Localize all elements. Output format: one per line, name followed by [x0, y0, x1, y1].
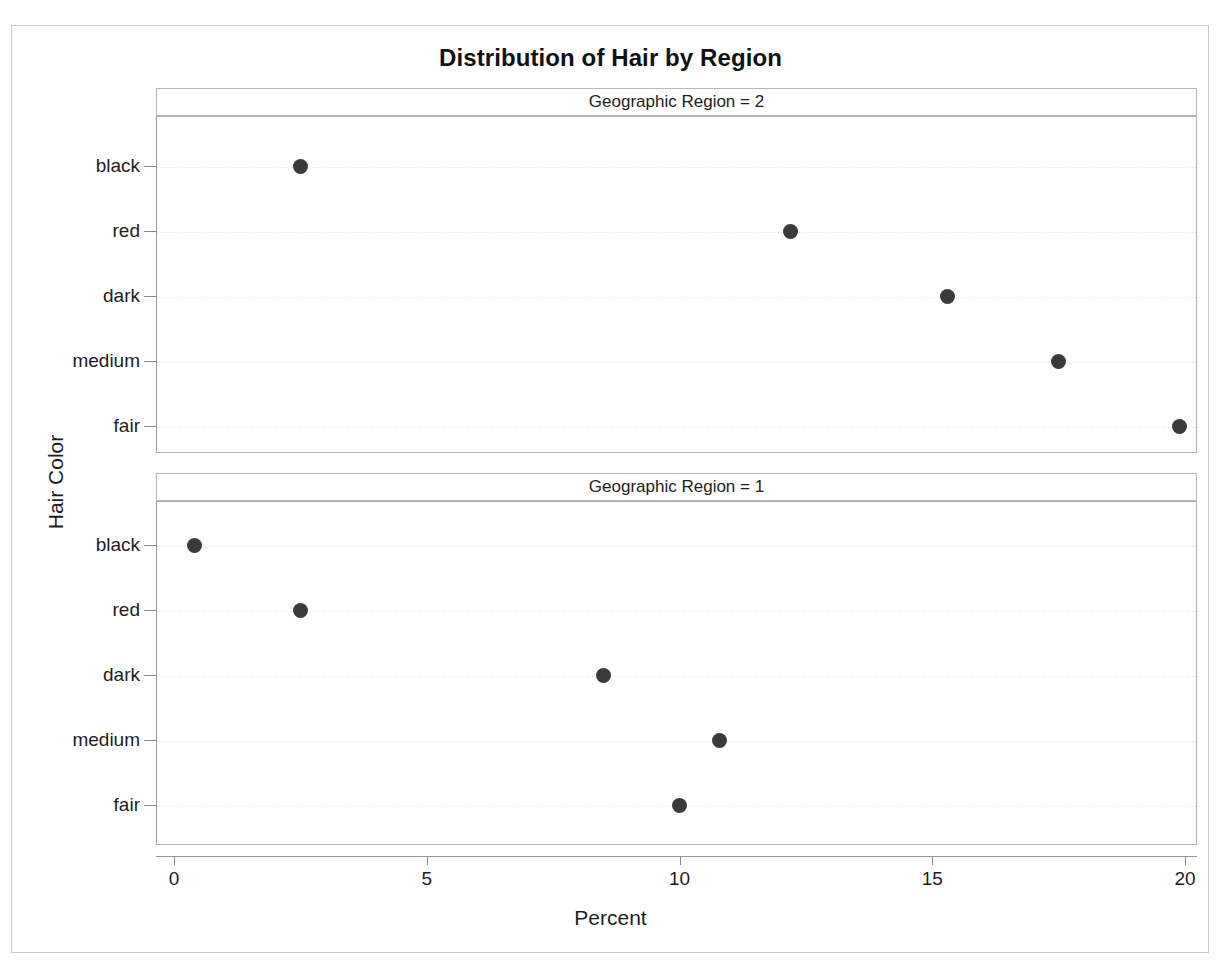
chart-page: Distribution of Hair by Region Geographi… [0, 0, 1221, 967]
gridline [157, 297, 1196, 298]
panel-header-region-2: Geographic Region = 2 [156, 88, 1197, 116]
y-tick-mark [144, 231, 156, 232]
plot-area-region-1 [156, 501, 1197, 845]
data-point [712, 733, 727, 748]
y-tick-mark [144, 610, 156, 611]
plot-area-region-2 [156, 116, 1197, 453]
y-tick-mark [144, 426, 156, 427]
y-tick-mark [144, 296, 156, 297]
data-point [293, 603, 308, 618]
data-point [187, 538, 202, 553]
x-tick-mark [427, 856, 428, 865]
page-title: Distribution of Hair by Region [0, 44, 1221, 72]
y-tick-label-red: red [0, 599, 140, 621]
gridline [157, 741, 1196, 742]
y-tick-mark [144, 675, 156, 676]
y-axis-spine-region-2 [156, 116, 157, 453]
y-tick-label-medium: medium [0, 729, 140, 751]
y-tick-mark [144, 545, 156, 546]
gridline [157, 167, 1196, 168]
data-point [1172, 419, 1187, 434]
x-tick-label-20: 20 [1174, 868, 1195, 890]
data-point [940, 289, 955, 304]
data-point [672, 798, 687, 813]
x-tick-label-0: 0 [169, 868, 180, 890]
data-point [783, 224, 798, 239]
gridline [157, 232, 1196, 233]
x-tick-mark [680, 856, 681, 865]
data-point [1051, 354, 1066, 369]
x-tick-mark [174, 856, 175, 865]
gridline [157, 611, 1196, 612]
y-tick-mark [144, 740, 156, 741]
y-tick-label-fair: fair [0, 415, 140, 437]
gridline [157, 546, 1196, 547]
y-tick-mark [144, 361, 156, 362]
y-tick-label-red: red [0, 220, 140, 242]
data-point [596, 668, 611, 683]
x-tick-label-15: 15 [922, 868, 943, 890]
y-tick-label-fair: fair [0, 794, 140, 816]
y-axis-spine-region-1 [156, 501, 157, 845]
data-point [293, 159, 308, 174]
gridline [157, 427, 1196, 428]
y-tick-label-dark: dark [0, 664, 140, 686]
x-tick-label-10: 10 [669, 868, 690, 890]
x-tick-mark [1185, 856, 1186, 865]
x-axis-line [156, 856, 1197, 857]
y-tick-mark [144, 166, 156, 167]
x-tick-label-5: 5 [421, 868, 432, 890]
gridline [157, 676, 1196, 677]
y-tick-label-dark: dark [0, 285, 140, 307]
x-tick-mark [932, 856, 933, 865]
gridline [157, 362, 1196, 363]
panel-header-region-1: Geographic Region = 1 [156, 473, 1197, 501]
y-tick-mark [144, 805, 156, 806]
y-tick-label-black: black [0, 534, 140, 556]
y-tick-label-black: black [0, 155, 140, 177]
x-axis-title: Percent [0, 906, 1221, 930]
y-tick-label-medium: medium [0, 350, 140, 372]
